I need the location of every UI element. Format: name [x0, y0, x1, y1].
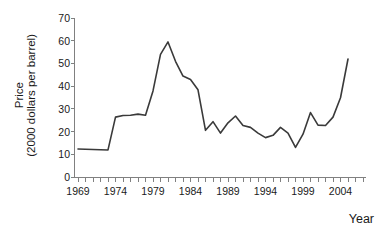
y-tick-label: 40: [58, 80, 70, 92]
y-tick-label: 70: [58, 12, 70, 24]
x-tick-label: 1999: [291, 185, 315, 197]
y-axis-tick-labels: 70 60 50 40 30 20 10 0: [58, 12, 70, 183]
x-axis-title: Year: [349, 212, 374, 226]
y-tick-label: 20: [58, 126, 70, 138]
x-axis-minor-ticks: [78, 178, 363, 183]
y-tick-label: 10: [58, 148, 70, 160]
x-tick-label: 1989: [216, 185, 240, 197]
x-axis-tick-labels: 1969 1974 1979 1984 1989 1994 1999 2004: [66, 185, 352, 197]
x-tick-label: 1969: [66, 185, 90, 197]
x-tick-label: 1994: [254, 185, 278, 197]
price-series-line: [78, 42, 348, 150]
x-tick-label: 1974: [104, 185, 128, 197]
y-tick-label: 60: [58, 35, 70, 47]
y-tick-label: 50: [58, 57, 70, 69]
y-axis-ticks: [71, 18, 75, 178]
plot-area: 70 60 50 40 30 20 10 0: [0, 0, 382, 229]
axis-lines: [75, 18, 367, 178]
y-tick-label: 0: [64, 171, 70, 183]
x-tick-label: 2004: [329, 185, 353, 197]
x-tick-label: 1984: [179, 185, 203, 197]
y-tick-label: 30: [58, 103, 70, 115]
x-tick-label: 1979: [141, 185, 165, 197]
oil-price-line-chart: Price (2000 dollars per barrel) 70 60 50…: [0, 0, 382, 229]
